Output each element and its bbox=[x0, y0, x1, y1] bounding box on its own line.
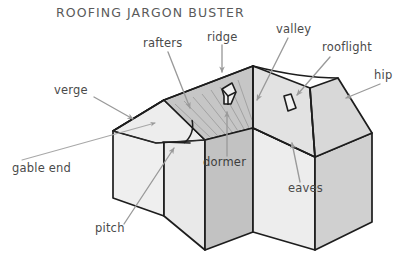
dormer-wall bbox=[205, 128, 253, 250]
page-title: ROOFING JARGON BUSTER bbox=[56, 5, 245, 20]
label-gable-end: gable end bbox=[12, 161, 71, 175]
label-rooflight: rooflight bbox=[322, 40, 372, 54]
diagram-canvas: ROOFING JARGON BUSTER rafters ridge vall… bbox=[0, 0, 409, 256]
label-rafters: rafters bbox=[143, 36, 182, 50]
label-hip: hip bbox=[374, 68, 392, 82]
leader-hip bbox=[346, 84, 380, 98]
label-eaves: eaves bbox=[288, 181, 323, 195]
label-dormer: dormer bbox=[203, 155, 246, 169]
label-pitch: pitch bbox=[95, 221, 125, 235]
label-valley: valley bbox=[276, 22, 311, 36]
label-verge: verge bbox=[54, 83, 88, 97]
roofing-diagram-svg: ROOFING JARGON BUSTER rafters ridge vall… bbox=[0, 0, 409, 256]
leader-verge bbox=[94, 97, 133, 119]
label-ridge: ridge bbox=[207, 30, 238, 44]
